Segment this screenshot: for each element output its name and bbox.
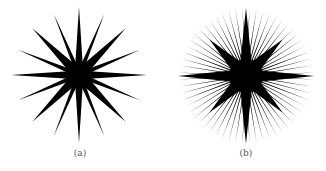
caption-b: (b) [226, 148, 266, 158]
starburst-with-rays-icon [0, 0, 326, 171]
star-figure-b: (b) [0, 0, 326, 171]
